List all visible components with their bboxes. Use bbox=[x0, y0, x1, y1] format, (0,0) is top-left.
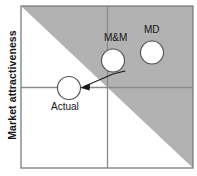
bubble-label-mm: M&M bbox=[104, 32, 127, 43]
bubble-mm[interactable] bbox=[102, 49, 125, 72]
portfolio-matrix-chart: Market attractiveness M&M MD Actual bbox=[0, 0, 197, 176]
bubble-label-actual: Actual bbox=[51, 101, 79, 112]
bubble-label-md: MD bbox=[144, 24, 160, 35]
bubble-md[interactable] bbox=[141, 41, 164, 64]
matrix-plot-area bbox=[0, 0, 197, 176]
bubble-actual[interactable] bbox=[58, 77, 81, 100]
y-axis-title: Market attractiveness bbox=[5, 12, 19, 158]
